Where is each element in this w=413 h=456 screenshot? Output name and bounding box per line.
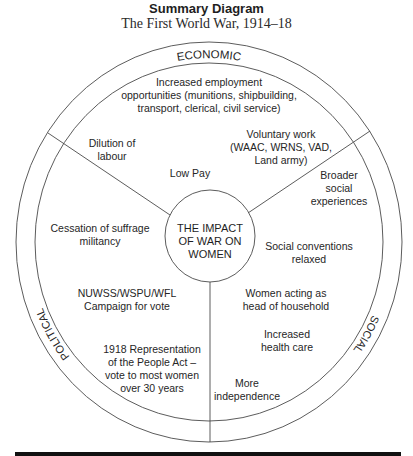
item-line: opportunities (munitions, shipbuilding,: [109, 89, 309, 102]
item-line: of the People Act –: [52, 356, 252, 369]
footer-bar: [15, 452, 401, 456]
section-label-economic: ECONOMIC: [176, 48, 242, 63]
item-line: militancy: [0, 235, 200, 248]
item-line: over 30 years: [52, 382, 252, 395]
item-line: Land army): [181, 154, 381, 167]
item-line: relaxed: [209, 253, 409, 266]
political-item-representation-act: 1918 Representation of the People Act – …: [52, 343, 252, 396]
social-item-conventions-relaxed: Social conventions relaxed: [209, 240, 409, 267]
political-item-campaign-for-vote: NUWSS/WSPU/WFL Campaign for vote: [27, 287, 227, 314]
item-line: Increased: [187, 328, 387, 341]
item-line: Campaign for vote: [27, 300, 227, 313]
item-line: Cessation of suffrage: [0, 222, 200, 235]
economic-item-voluntary-work: Voluntary work (WAAC, WRNS, VAD, Land ar…: [181, 128, 381, 168]
item-line: 1918 Representation: [52, 343, 252, 356]
item-line: experiences: [239, 195, 413, 208]
item-line: NUWSS/WSPU/WFL: [27, 287, 227, 300]
political-item-cessation-of-militancy: Cessation of suffrage militancy: [0, 222, 200, 249]
social-item-broader-experiences: Broader social experiences: [239, 169, 413, 209]
item-line: Social conventions: [209, 240, 409, 253]
item-line: social: [239, 182, 413, 195]
economic-item-increased-employment: Increased employment opportunities (muni…: [109, 76, 309, 116]
item-line: vote to most women: [52, 369, 252, 382]
item-line: Broader: [239, 169, 413, 182]
item-line: transport, clerical, civil service): [109, 102, 309, 115]
item-line: (WAAC, WRNS, VAD,: [181, 141, 381, 154]
item-line: Voluntary work: [181, 128, 381, 141]
item-line: Increased employment: [109, 76, 309, 89]
